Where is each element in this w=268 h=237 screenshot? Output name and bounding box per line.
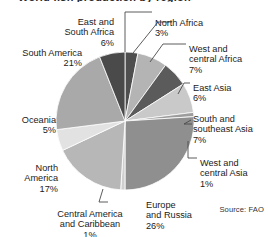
label-europe-and-russia: Europe and Russia 26% <box>146 189 212 237</box>
label-central-america-and-caribbean-name: Central America and Caribbean <box>57 209 122 230</box>
label-east-asia-name: East Asia <box>193 83 231 93</box>
label-west-and-central-asia-pct: 1% <box>200 179 268 190</box>
label-oceania-pct: 5% <box>2 125 56 136</box>
label-south-america-name: South America <box>22 48 82 58</box>
source-note: Source: FAO <box>219 205 264 214</box>
label-central-america-and-caribbean-pct: 1% <box>40 230 140 237</box>
label-west-and-central-africa-name: West and central Africa <box>189 44 242 65</box>
label-north-america: North America 17% <box>2 152 58 205</box>
label-south-and-southeast-asia-name: South and southeast Asia <box>193 114 253 135</box>
label-oceania: Oceania 5% <box>2 104 56 146</box>
label-oceania-name: Oceania <box>22 115 56 125</box>
label-europe-and-russia-name: Europe and Russia <box>146 200 192 221</box>
label-north-america-name: North America <box>24 163 58 184</box>
pie-slice-europe-and-russia <box>125 117 194 190</box>
label-west-and-central-asia-name: West and central Asia <box>200 158 248 179</box>
label-south-america-pct: 21% <box>2 58 82 69</box>
label-north-america-pct: 17% <box>2 184 58 195</box>
label-north-africa-name: North Africa <box>155 18 203 28</box>
label-south-america: South America 21% <box>2 37 82 79</box>
label-south-and-southeast-asia-pct: 7% <box>193 135 268 146</box>
label-europe-and-russia-pct: 26% <box>146 221 212 232</box>
pie-chart-figure: World fish production by region East and… <box>0 0 268 237</box>
label-east-and-south-africa-name: East and South Africa <box>64 17 114 38</box>
